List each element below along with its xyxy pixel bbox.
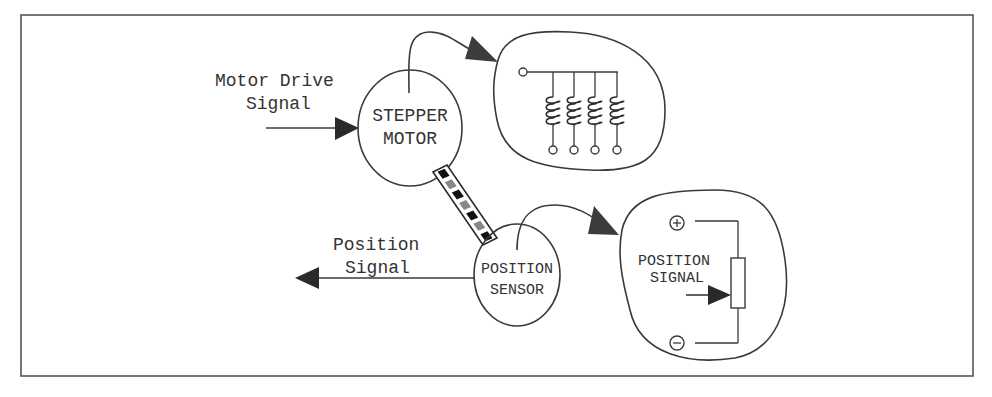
coil-terminal xyxy=(570,146,578,154)
potentiometer-label-line1: POSITION xyxy=(638,253,710,270)
position-signal-label-line2: Signal xyxy=(345,258,410,278)
coil-common-terminal xyxy=(519,68,527,76)
coil-terminal xyxy=(613,146,621,154)
coil-terminal xyxy=(591,146,599,154)
coil-winding xyxy=(567,72,581,154)
diagram-frame xyxy=(21,15,973,376)
sensor-callout-arrowhead xyxy=(588,206,619,235)
coil-winding xyxy=(588,72,602,154)
coil-schematic xyxy=(519,68,618,76)
resistor-body xyxy=(731,258,745,308)
coil-icon xyxy=(546,97,560,125)
motor-drive-label-line2: Signal xyxy=(246,94,311,114)
coil-winding xyxy=(610,72,624,154)
coil-icon xyxy=(610,97,624,125)
motor-drive-arrowhead xyxy=(335,117,359,140)
stepper-motor-label-line2: MOTOR xyxy=(383,129,437,149)
potentiometer-label-line2: SIGNAL xyxy=(650,270,704,287)
coil-winding xyxy=(546,72,560,154)
stepper-motor-diagram: Motor Drive Signal STEPPER MOTOR POSITIO… xyxy=(0,0,992,397)
shaft xyxy=(433,165,497,245)
position-signal-arrowhead xyxy=(295,267,319,289)
coil-icon xyxy=(567,97,581,125)
motor-drive-label-line1: Motor Drive xyxy=(215,71,334,91)
stepper-motor-label-line1: STEPPER xyxy=(372,106,448,126)
coil-icon xyxy=(588,97,602,125)
wiper-arrowhead xyxy=(708,285,731,305)
position-signal-label-line1: Position xyxy=(333,235,419,255)
coil-terminal xyxy=(549,146,557,154)
position-sensor-label-line2: SENSOR xyxy=(490,282,544,299)
position-sensor-label-line1: POSITION xyxy=(481,261,553,278)
stepper-callout-arrowhead xyxy=(465,36,498,62)
